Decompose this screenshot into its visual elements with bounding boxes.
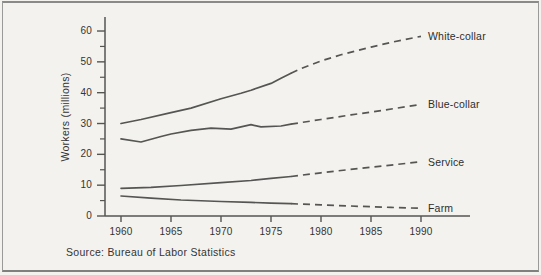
y-tick-label-0: 0 [70,210,92,222]
x-tick-label-1985: 1985 [353,226,389,238]
y-tick-label-20: 20 [70,148,92,160]
figure-page: Workers (millions) 010203040506019601965… [0,0,541,275]
series-projection-blue-collar [291,104,421,124]
series-line-farm [121,196,291,204]
series-label-blue-collar: Blue-collar [428,97,480,111]
x-tick-label-1960: 1960 [103,226,139,238]
series-projection-service [291,162,421,177]
series-projection-farm [291,204,421,209]
y-tick-label-40: 40 [70,87,92,99]
x-tick-label-1965: 1965 [153,226,189,238]
series-projection-white-collar [291,36,421,73]
y-tick-label-30: 30 [70,118,92,130]
y-tick-label-60: 60 [70,25,92,37]
y-tick-label-10: 10 [70,179,92,191]
source-caption: Source: Bureau of Labor Statistics [66,246,236,258]
series-line-service [121,177,291,189]
x-tick-label-1970: 1970 [203,226,239,238]
series-label-service: Service [428,155,464,169]
series-line-blue-collar [121,124,291,142]
x-tick-label-1990: 1990 [403,226,439,238]
x-tick-label-1975: 1975 [253,226,289,238]
series-label-farm: Farm [428,201,453,215]
y-tick-label-50: 50 [70,56,92,68]
x-tick-label-1980: 1980 [303,226,339,238]
series-line-white-collar [121,73,291,123]
series-label-white-collar: White-collar [428,29,486,43]
